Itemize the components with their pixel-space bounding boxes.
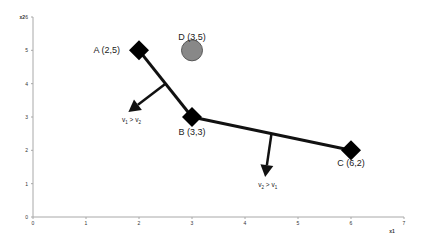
scatter-chart: 012345670123456x1x2 v1 > v2v2 > v1 A (2,… (0, 0, 428, 247)
arrow-label-2: v2 > v1 (258, 181, 277, 190)
point-label-D: D (3,5) (178, 32, 206, 42)
y-tick-label: 5 (25, 47, 28, 53)
point-label-C: C (6,2) (337, 158, 365, 168)
x-tick-label: 5 (297, 220, 300, 226)
point-A: A (2,5) (93, 40, 149, 60)
segment-BC (192, 117, 351, 150)
x-tick-label: 7 (403, 220, 406, 226)
y-axis-title: x2 (19, 14, 25, 20)
x-tick-label: 2 (138, 220, 141, 226)
y-tick-label: 2 (25, 147, 28, 153)
point-label-B: B (3,3) (178, 127, 205, 137)
circle-marker-icon (182, 40, 203, 61)
arrow-2: v2 > v1 (258, 134, 277, 190)
arrow-shaft (267, 134, 272, 165)
arrow-1: v1 > v2 (122, 84, 165, 125)
point-label-A: A (2,5) (93, 45, 120, 55)
point-B: B (3,3) (178, 107, 205, 137)
y-tick-label: 3 (25, 114, 28, 120)
arrow-shaft (138, 84, 166, 105)
x-tick-label: 1 (85, 220, 88, 226)
point-C: C (6,2) (337, 140, 365, 168)
x-tick-label: 4 (244, 220, 247, 226)
x-tick-label: 0 (32, 220, 35, 226)
boundary-segments (139, 50, 351, 150)
y-tick-label: 4 (25, 81, 28, 87)
diamond-marker-icon (341, 140, 361, 160)
point-D: D (3,5) (178, 32, 206, 61)
y-tick-label: 1 (25, 181, 28, 187)
x-axis-title: x1 (389, 228, 395, 234)
x-tick-label: 6 (350, 220, 353, 226)
x-tick-label: 3 (191, 220, 194, 226)
arrow-label-1: v1 > v2 (122, 116, 141, 125)
y-tick-label: 0 (25, 214, 28, 220)
arrowhead-icon (128, 100, 141, 112)
y-tick-label: 6 (25, 14, 28, 20)
axes: 012345670123456x1x2 (19, 14, 405, 234)
arrowhead-icon (260, 164, 273, 177)
